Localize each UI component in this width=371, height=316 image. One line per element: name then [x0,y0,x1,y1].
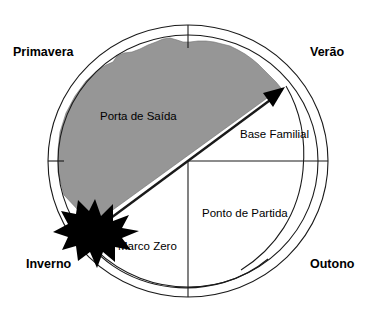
season-label-outono: Outono [310,257,355,271]
label-ponto-de-partida: Ponto de Partida [202,207,288,219]
diagram-canvas: Primavera Verão Inverno Outono Porta de … [0,0,371,316]
label-marco-zero: Marco Zero [118,240,177,252]
season-label-inverno: Inverno [26,257,72,271]
season-label-verao: Verão [310,45,344,59]
season-label-primavera: Primavera [13,45,75,59]
label-base-familial: Base Familial [240,128,309,140]
label-porta-de-saida: Porta de Saída [100,110,177,122]
